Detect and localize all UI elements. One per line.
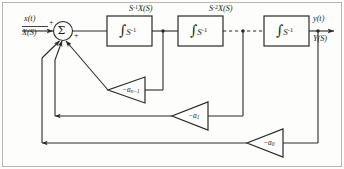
block-diagram-figure: x(t) X(S) + + + Σ ∫S-1 ∫S-1 ∫S-1 S-1X(S)… — [0, 0, 344, 169]
integrator-2-label: ∫S-1 — [190, 23, 207, 37]
integrator-3-exponent: -1 — [288, 26, 293, 33]
signal-label-s1x: S-1X(S) — [129, 5, 153, 14]
gain-2-subscript: 1 — [197, 114, 200, 120]
signal-label-s2x: S-2X(S) — [209, 5, 233, 14]
summer-feedback-sign: + — [67, 41, 72, 49]
feedback1-to-summer-line — [66, 41, 108, 90]
integrator-1-exponent: -1 — [131, 26, 136, 33]
integrator-1-label: ∫S-1 — [119, 23, 136, 37]
signal-1-variable: X(S) — [138, 4, 153, 13]
integrator-2-exponent: -1 — [202, 26, 207, 33]
gain-label-a-0: −a0 — [263, 139, 274, 148]
gain-label-a-n-minus-1: −an−1 — [122, 86, 140, 95]
output-laplace-label: Y(S) — [313, 35, 327, 43]
gain-3-subscript: 0 — [272, 141, 275, 147]
input-laplace-label: X(S) — [22, 29, 37, 37]
integrator-3-label: ∫S-1 — [276, 23, 293, 37]
summer-forward-sign: + — [74, 32, 79, 40]
gain-1-subscript: n−1 — [131, 88, 140, 94]
input-time-label: x(t) — [24, 15, 35, 23]
summation-symbol: Σ — [58, 25, 66, 36]
summer-input-sign: + — [49, 19, 54, 27]
signal-2-variable: X(S) — [218, 4, 233, 13]
gain-label-a-1: −a1 — [188, 112, 199, 121]
output-time-label: y(t) — [313, 15, 324, 23]
